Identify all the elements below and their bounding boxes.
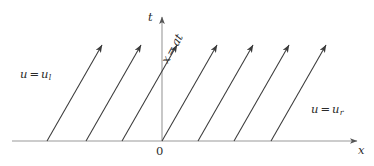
right-state-label: u=ur xyxy=(311,104,343,116)
axes-group xyxy=(12,17,357,141)
left-state-label: u=ul xyxy=(20,69,51,81)
right-state-subscript: r xyxy=(340,108,344,117)
left-state-subscript: l xyxy=(49,73,52,82)
characteristic-line-7 xyxy=(271,45,326,141)
characteristics-group xyxy=(47,45,326,141)
characteristics-figure: u=ul u=ur x=at t x 0 xyxy=(0,0,374,166)
characteristic-line-6 xyxy=(234,45,289,141)
t-axis-label: t xyxy=(148,12,153,24)
right-state-operator: = xyxy=(318,102,332,116)
x-axis-label: x xyxy=(358,145,365,157)
left-state-operator: = xyxy=(27,67,41,81)
right-state-value: u xyxy=(332,102,339,116)
origin-label: 0 xyxy=(156,146,163,158)
figure-canvas xyxy=(0,0,374,166)
characteristic-line-5 xyxy=(198,45,253,141)
left-state-value: u xyxy=(41,67,48,81)
